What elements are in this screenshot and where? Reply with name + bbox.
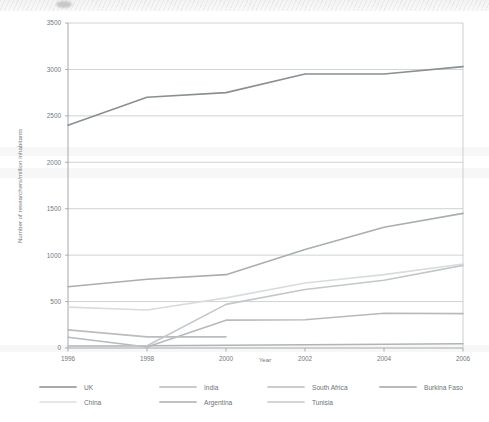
y-axis-title: Number of researchers/million inhabitant… xyxy=(16,129,23,243)
y-tick-label: 3000 xyxy=(47,66,62,73)
series-line-uk xyxy=(68,67,463,126)
legend-label-india: India xyxy=(204,384,219,391)
y-tick-label: 2000 xyxy=(47,159,62,166)
y-tick-label: 3500 xyxy=(47,19,62,26)
x-tick-label: 2006 xyxy=(456,355,471,362)
series-line-tunisia xyxy=(68,265,463,346)
x-tick-marks-group xyxy=(68,348,463,352)
series-lines-group xyxy=(68,67,463,347)
x-tick-label: 2000 xyxy=(219,355,234,362)
legend-label-china: China xyxy=(84,399,102,406)
y-tick-label: 500 xyxy=(50,298,61,305)
x-axis-title: Year xyxy=(259,356,272,363)
x-tick-label: 2002 xyxy=(298,355,313,362)
chart-legend: UKIndiaSouth AfricaBurkina FasoChinaArge… xyxy=(40,384,463,407)
y-tick-label: 1500 xyxy=(47,205,62,212)
line-chart-figure: 0500100015002000250030003500 19961998200… xyxy=(0,0,489,422)
x-tick-label: 2004 xyxy=(377,355,392,362)
legend-label-tunisia: Tunisia xyxy=(312,399,333,406)
y-tick-label: 0 xyxy=(57,344,61,351)
series-line-china xyxy=(68,264,463,310)
y-tick-labels-group: 0500100015002000250030003500 xyxy=(47,19,62,351)
legend-label-south-africa: South Africa xyxy=(312,384,348,391)
legend-label-argentina: Argentina xyxy=(204,399,233,407)
series-line-india xyxy=(68,313,463,347)
y-tick-label: 1000 xyxy=(47,252,62,259)
x-tick-label: 1996 xyxy=(61,355,76,362)
chart-svg: 0500100015002000250030003500 19961998200… xyxy=(0,0,489,422)
x-tick-label: 1998 xyxy=(140,355,155,362)
legend-label-uk: UK xyxy=(84,384,94,391)
y-tick-label: 2500 xyxy=(47,112,62,119)
legend-label-burkina-faso: Burkina Faso xyxy=(424,384,463,391)
series-line-south-africa xyxy=(68,330,226,337)
gridlines-group xyxy=(68,23,463,302)
